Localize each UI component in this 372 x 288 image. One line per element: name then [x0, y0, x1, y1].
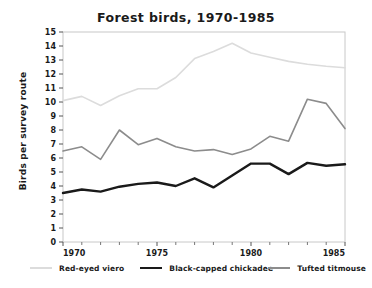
legend-swatch-black-capped-chickadee [140, 267, 162, 269]
x-tick-label: 1980 [240, 249, 263, 258]
y-tick-label: 4 [50, 182, 56, 191]
legend-item-black-capped-chickadee[interactable]: Black-capped chickadee [140, 264, 268, 273]
y-tick-label: 9 [50, 112, 56, 121]
legend-swatch-red-eyed-viero [30, 267, 52, 269]
y-tick-label: 6 [50, 154, 56, 163]
series-line-tufted-titmouse [63, 99, 345, 159]
legend-swatch-tufted-titmouse [268, 267, 290, 269]
plot-area: 01234567891011121314151970197519801985 [0, 0, 372, 288]
y-tick-label: 15 [45, 28, 57, 37]
y-tick-label: 7 [50, 140, 56, 149]
legend-label-red-eyed-viero: Red-eyed viero [59, 264, 124, 273]
y-tick-label: 8 [50, 126, 56, 135]
series-line-black-capped-chickadee [63, 163, 345, 193]
y-tick-label: 2 [50, 210, 56, 219]
y-tick-label: 3 [50, 196, 56, 205]
y-tick-label: 1 [50, 224, 56, 233]
x-tick-label: 1975 [146, 249, 169, 258]
y-tick-label: 12 [45, 70, 56, 79]
series-line-red-eyed-viero [63, 43, 345, 105]
legend-label-tufted-titmouse: Tufted titmouse [297, 264, 366, 273]
legend-item-tufted-titmouse[interactable]: Tufted titmouse [268, 264, 366, 273]
legend-label-black-capped-chickadee: Black-capped chickadee [169, 264, 273, 273]
y-tick-label: 13 [45, 56, 56, 65]
y-tick-label: 5 [50, 168, 56, 177]
y-tick-label: 0 [50, 238, 56, 247]
chart-legend: Red-eyed viero Black-capped chickadee Tu… [30, 259, 366, 277]
y-tick-label: 14 [45, 42, 57, 51]
x-tick-label: 1985 [323, 249, 346, 258]
series-layer [63, 43, 345, 193]
chart-container: Forest birds, 1970-1985 Birds per survey… [0, 0, 372, 288]
x-tick-label: 1970 [63, 249, 86, 258]
y-tick-label: 10 [45, 98, 57, 107]
legend-item-red-eyed-viero[interactable]: Red-eyed viero [30, 264, 140, 273]
y-tick-label: 11 [45, 84, 57, 93]
